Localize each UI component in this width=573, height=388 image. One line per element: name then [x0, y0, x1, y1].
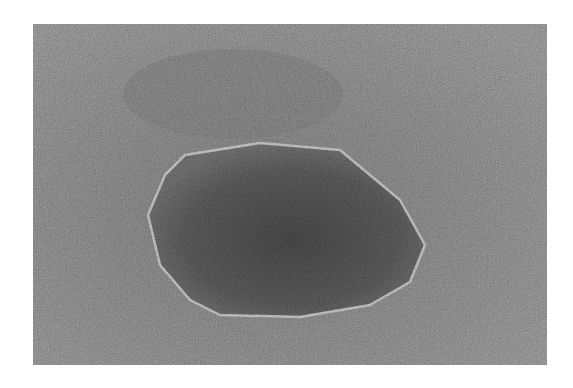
micrograph-image	[33, 24, 547, 365]
micrograph-figure	[33, 24, 547, 365]
